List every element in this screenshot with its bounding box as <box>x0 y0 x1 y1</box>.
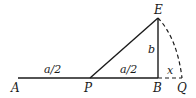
segment-label-be: b <box>148 43 155 56</box>
point-label-p: P <box>83 81 93 95</box>
segment-label-bq: x <box>167 64 174 77</box>
point-label-b: B <box>152 81 162 95</box>
point-label-q: Q <box>177 81 187 95</box>
segment-label-pb: a/2 <box>120 63 137 76</box>
point-label-e: E <box>153 3 163 17</box>
geometry-diagram: A P B Q E a/2 a/2 b x <box>0 0 196 98</box>
segment-label-ap: a/2 <box>44 63 61 76</box>
point-label-a: A <box>10 81 20 95</box>
